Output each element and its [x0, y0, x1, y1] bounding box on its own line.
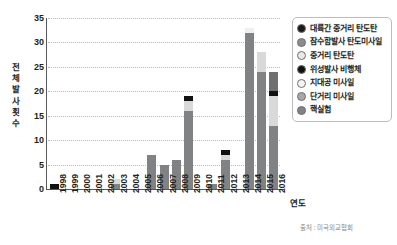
y-axis-tick-label: 5: [22, 160, 44, 170]
y-axis-tick-label: 35: [22, 13, 44, 23]
bar: [257, 52, 266, 189]
legend-item-label: 잠수함발사 탄도미사일: [310, 38, 382, 46]
legend-item-label: 단거리 미사일: [310, 93, 354, 101]
legend-item[interactable]: 대륙간 중거리 탄도탄: [297, 22, 388, 36]
legend-item[interactable]: 위성발사 비행체: [297, 63, 388, 77]
legend-item[interactable]: 단거리 미사일: [297, 90, 388, 104]
y-axis-tick-label: 20: [22, 86, 44, 96]
legend-swatch-icon: [297, 79, 306, 88]
bar-segment: [257, 52, 266, 72]
legend-item[interactable]: 핵실험: [297, 104, 388, 118]
bar-segment: [257, 72, 266, 189]
legend-item-label: 핵실험: [310, 106, 331, 114]
bar-segment: [245, 33, 254, 189]
legend-item-label: 대륙간 중거리 탄도탄: [310, 25, 377, 33]
y-axis-tick-label: 15: [22, 111, 44, 121]
bar-segment: [269, 96, 278, 125]
legend-item-label: 중거리 탄도탄: [310, 52, 354, 60]
bar-segment: [184, 101, 193, 111]
legend-swatch-icon: [297, 92, 306, 101]
y-axis-line: [46, 18, 47, 189]
y-axis-tick-label: 30: [22, 37, 44, 47]
x-axis-title: 연도: [290, 196, 306, 208]
legend: 대륙간 중거리 탄도탄잠수함발사 탄도미사일중거리 탄도탄위성발사 비행체지대공…: [292, 17, 392, 122]
y-axis-tick-label: 10: [22, 135, 44, 145]
legend-swatch-icon: [297, 106, 306, 115]
plot-area: [48, 18, 280, 189]
source-note: 출처 : 미국외교협회: [300, 222, 353, 232]
legend-item-label: 지대공 미사일: [310, 79, 354, 87]
legend-item[interactable]: 잠수함발사 탄도미사일: [297, 36, 388, 50]
legend-item[interactable]: 지대공 미사일: [297, 76, 388, 90]
gridline: [48, 18, 280, 19]
y-axis-tick-label: 0: [22, 184, 44, 194]
bar: [245, 28, 254, 189]
bar-chart: 전체발사횟수 05101520253035 199819992000200120…: [0, 0, 397, 245]
bar-segment: [269, 72, 278, 92]
legend-swatch-icon: [297, 38, 306, 47]
y-axis-tick-label: 25: [22, 62, 44, 72]
y-axis-tick-labels: 05101520253035: [22, 0, 44, 245]
legend-swatch-icon: [297, 51, 306, 60]
x-axis-tick-labels: 1998199920002001200220032004200520062007…: [48, 191, 288, 237]
bar: [269, 72, 278, 189]
legend-swatch-icon: [297, 24, 306, 33]
legend-swatch-icon: [297, 65, 306, 74]
legend-item[interactable]: 중거리 탄도탄: [297, 49, 388, 63]
legend-item-label: 위성발사 비행체: [310, 66, 361, 74]
